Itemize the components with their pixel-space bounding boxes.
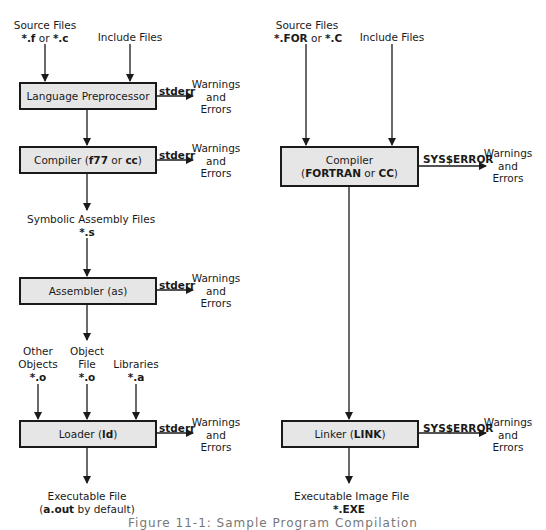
warnings-and-errors-label: WarningsandErrors	[480, 416, 536, 454]
warnings-and-errors-label: WarningsandErrors	[480, 147, 536, 185]
warnings-and-errors-label: WarningsandErrors	[188, 272, 244, 310]
compiler-fortran-cc-box: Compiler (FORTRAN or CC)	[280, 146, 419, 187]
assembler-box: Assembler (as)	[19, 277, 157, 305]
loader-box: Loader (ld)	[19, 420, 157, 448]
unix-include-files-label: Include Files	[95, 31, 165, 44]
executable-file-label: Executable File (a.out by default)	[37, 490, 137, 516]
warnings-and-errors-label: WarningsandErrors	[188, 416, 244, 454]
unix-source-files-label: Source Files *.f or *.c	[13, 19, 77, 45]
language-preprocessor-box: Language Preprocessor	[19, 82, 157, 110]
object-file-label: Object File *.o	[66, 345, 108, 384]
vms-include-files-label: Include Files	[357, 31, 427, 44]
other-objects-label: Other Objects *.o	[14, 345, 62, 384]
connector-lines	[0, 0, 546, 530]
figure-caption: Figure 11-1: Sample Program Compilation	[0, 516, 546, 530]
executable-image-file-label: Executable Image File *.EXE	[294, 490, 404, 516]
vms-source-files-label: Source Files *.FOR or *.C	[274, 19, 340, 45]
compiler-f77-cc-box: Compiler (f77 or cc)	[19, 146, 157, 174]
libraries-label: Libraries *.a	[110, 358, 162, 384]
linker-box: Linker (LINK)	[281, 420, 419, 448]
warnings-and-errors-label: WarningsandErrors	[188, 78, 244, 116]
symbolic-assembly-files-label: Symbolic Assembly Files *.s	[27, 213, 147, 239]
warnings-and-errors-label: WarningsandErrors	[188, 142, 244, 180]
